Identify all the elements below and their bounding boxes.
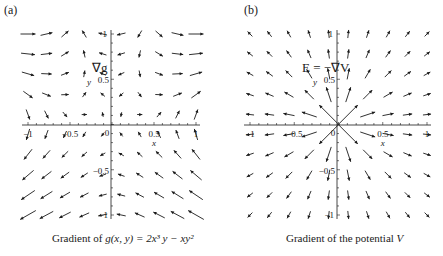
vector-arrow (174, 150, 181, 158)
vector-arrow (61, 93, 69, 96)
vector-arrow (191, 91, 200, 98)
vector-arrow (26, 109, 30, 119)
vector-arrow (248, 213, 253, 218)
x-axis-label: x (380, 138, 385, 148)
vector-arrow (424, 52, 430, 56)
vector-arrow (405, 192, 410, 197)
vector-arrow (157, 112, 161, 117)
vector-arrow (302, 132, 317, 137)
vector-arrow (384, 92, 393, 97)
vector-arrow (42, 171, 52, 179)
vector-arrow (284, 92, 293, 97)
vector-arrow (266, 173, 273, 178)
vector-arrow (82, 31, 86, 38)
vector-arrow (319, 105, 338, 124)
vector-arrow (118, 53, 125, 56)
vector-arrow (138, 132, 141, 137)
vector-arrow (347, 30, 350, 38)
vector-arrow (386, 192, 391, 199)
vector-arrow (366, 211, 369, 219)
vector-arrow (172, 72, 182, 75)
x-axis-label: x (151, 138, 156, 148)
vector-arrow (347, 190, 350, 199)
vector-arrow (42, 93, 51, 97)
vector-arrow (61, 52, 69, 57)
vector-arrow (386, 51, 391, 58)
vector-arrow (41, 191, 53, 198)
vector-arrow (246, 113, 254, 116)
vector-arrow (425, 213, 430, 218)
vector-arrow (403, 133, 412, 136)
vector-arrow (360, 112, 375, 117)
vector-arrow (176, 130, 180, 139)
vector-arrow (265, 133, 274, 136)
vector-arrow (385, 172, 392, 179)
vector-arrow (188, 211, 204, 220)
vector-arrow (100, 153, 105, 156)
vector-arrow (246, 153, 254, 156)
vector-arrow (247, 193, 253, 197)
vector-arrow (120, 112, 123, 117)
vector-arrow (155, 172, 163, 178)
vector-arrow (267, 31, 271, 37)
vector-arrow (365, 69, 370, 78)
vector-arrow (118, 72, 124, 75)
vector-arrow (138, 50, 141, 57)
vector-arrow (363, 150, 372, 159)
vector-arrow (267, 212, 271, 218)
vector-arrow (382, 112, 393, 115)
vector-arrow (305, 150, 314, 159)
vector-field-plot-b: −1−0.500.51x10.5−0.5−1yE = −∇V (222, 0, 443, 256)
annotation-electric-field: E = −∇V (302, 60, 350, 75)
vector-arrow (319, 125, 338, 144)
vector-arrow (265, 93, 273, 97)
vector-arrow (284, 152, 293, 157)
vector-arrow (365, 171, 370, 180)
vector-arrow (60, 192, 70, 198)
vector-arrow (21, 190, 35, 199)
vector-arrow (101, 112, 104, 117)
vector-arrow (82, 152, 87, 157)
vector-arrow (425, 32, 430, 37)
vector-arrow (194, 109, 198, 119)
x-tick-label: −0.5 (62, 129, 79, 139)
vector-field-plot-a: −1−0.500.51x10.5−0.5−1y∇g (0, 0, 222, 256)
vector-arrow (154, 192, 164, 198)
panel-a: (a) −1−0.500.51x10.5−0.5−1y∇g Gradient o… (0, 0, 222, 256)
vector-arrow (346, 87, 351, 102)
vector-arrow (155, 93, 163, 96)
caption-math: g(x, y) = 2x³ y − xy² (105, 232, 193, 244)
vector-arrow (189, 190, 203, 199)
vector-arrow (287, 51, 292, 58)
vector-arrow (45, 111, 49, 119)
vector-arrow (117, 193, 125, 196)
y-axis-label: y (86, 77, 91, 87)
vector-arrow (347, 170, 350, 181)
vector-arrow (137, 152, 142, 157)
vector-arrow (135, 193, 143, 197)
vector-arrow (339, 125, 358, 144)
vector-arrow (22, 72, 34, 76)
vector-arrow (405, 51, 410, 56)
vector-arrow (307, 171, 312, 180)
vector-arrow (59, 212, 70, 218)
y-tick-label: −0.5 (93, 166, 110, 176)
vector-arrow (360, 132, 375, 137)
vector-arrow (423, 153, 431, 156)
vector-arrow (41, 52, 52, 55)
vector-arrow (137, 113, 142, 116)
vector-arrow (176, 111, 180, 119)
vector-arrow (40, 211, 53, 218)
vector-arrow (347, 49, 350, 58)
vector-arrow (385, 71, 392, 78)
vector-arrow (20, 32, 35, 35)
vector-arrow (171, 211, 184, 218)
vector-arrow (366, 191, 370, 199)
vector-arrow (138, 71, 141, 78)
vector-arrow (80, 193, 88, 197)
y-axis-label: y (312, 77, 317, 87)
vector-arrow (101, 93, 105, 97)
annotation-gradient-g: ∇g (91, 60, 108, 75)
vector-arrow (265, 153, 273, 157)
vector-arrow (188, 32, 203, 35)
